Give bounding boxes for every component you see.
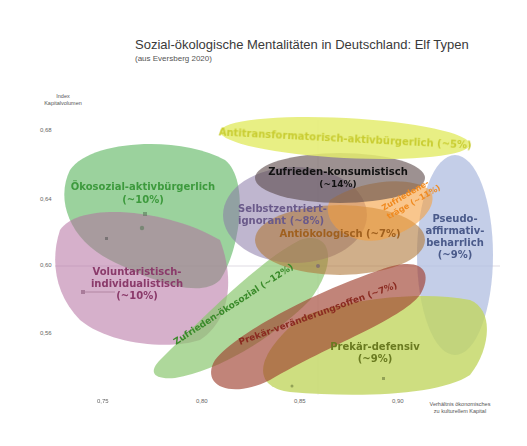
label-prekaer-defensiv: Prekär-defensiv bbox=[330, 341, 420, 352]
label-pseudo-1: Pseudo- bbox=[432, 213, 477, 224]
x-tick: 0,75 bbox=[97, 398, 109, 404]
label-zufrieden-konsumistisch: Zufrieden-konsumistisch bbox=[268, 166, 408, 177]
x-axis-label-line2: zu kulturellem Kapital bbox=[420, 408, 500, 415]
x-tick: 0,85 bbox=[294, 398, 306, 404]
label-antioekologisch: Antiökologisch (~7%) bbox=[279, 228, 400, 239]
label-prekaer-defensiv-share: (~9%) bbox=[358, 353, 393, 364]
label-voluntaristisch-2: individualistisch bbox=[91, 278, 183, 289]
label-voluntaristisch-share: (~10%) bbox=[116, 290, 157, 301]
label-pseudo-2: affirmativ- bbox=[426, 225, 485, 236]
label-pseudo-3: beharrlich bbox=[426, 237, 484, 248]
x-axis-label-line1: Verhältnis ökonomisches bbox=[420, 401, 500, 408]
x-tick: 0,90 bbox=[392, 398, 404, 404]
label-oekosozial-aktiv: Ökosozial-aktivbürgerlich bbox=[71, 179, 215, 192]
label-selbstzentriert-2: ignorant (~8%) bbox=[238, 215, 324, 226]
plot-area: Antitransformatorisch-aktivbürgerlich (~… bbox=[0, 0, 527, 446]
label-selbstzentriert: Selbstzentriert- bbox=[238, 203, 327, 214]
label-voluntaristisch-1: Voluntaristisch- bbox=[93, 266, 182, 277]
x-tick: 0,80 bbox=[196, 398, 208, 404]
label-oekosozial-aktiv-share: (~10%) bbox=[122, 194, 163, 205]
label-zufrieden-konsumistisch-share: (~14%) bbox=[319, 179, 356, 189]
label-pseudo-share: (~9%) bbox=[438, 249, 473, 260]
x-axis-label: Verhältnis ökonomisches zu kulturellem K… bbox=[420, 401, 500, 415]
